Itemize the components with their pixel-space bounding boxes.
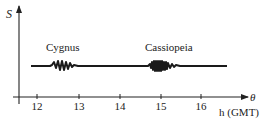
radio-signal-chart: S θ h (GMT) 12 13 14 15 16 Cygnus Cassio… (0, 0, 264, 123)
x-tick-label: 15 (156, 100, 168, 112)
x-tick-label: 16 (196, 100, 208, 112)
x-axis-unit-label: h (GMT) (219, 106, 259, 119)
y-axis-label: S (6, 7, 12, 21)
annotation-cassiopeia: Cassiopeia (145, 41, 193, 53)
x-axis: θ h (GMT) (13, 91, 259, 119)
signal-trace (31, 61, 227, 71)
x-axis-symbol: θ (250, 91, 256, 103)
annotation-cygnus: Cygnus (46, 41, 80, 53)
y-axis: S (6, 6, 19, 104)
x-tick-label: 12 (32, 100, 43, 112)
x-tick-label: 14 (115, 100, 127, 112)
x-tick-label: 13 (74, 100, 86, 112)
